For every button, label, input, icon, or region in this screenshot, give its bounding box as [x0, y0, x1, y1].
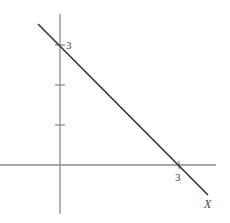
diagram-canvas: 3 3 X — [0, 0, 230, 223]
graph-line — [38, 24, 208, 195]
x-tick-label: 3 — [175, 171, 181, 183]
graph: 3 3 X — [0, 0, 230, 223]
y-tick-label: 3 — [66, 39, 72, 51]
x-axis-label: X — [203, 197, 212, 211]
